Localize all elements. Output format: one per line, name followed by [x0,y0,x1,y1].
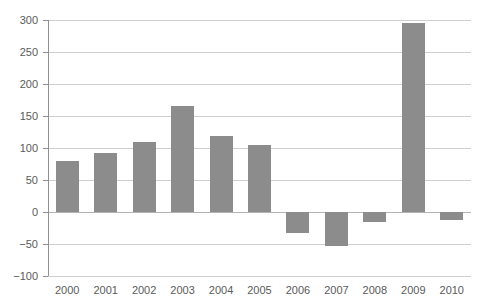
bar-2004 [210,136,233,212]
bar-2000 [56,161,79,212]
bar-chart: −100−50050100150200250300 20002001200220… [0,0,477,306]
gridline-300 [48,20,471,21]
gridline-0 [48,212,471,213]
bar-2008 [363,212,386,222]
y-tick-label--50: −50 [19,239,38,250]
y-tick-label-150: 150 [20,111,38,122]
y-tick-label--100: −100 [13,271,38,282]
gridline--100 [48,276,471,277]
y-tick-mark-50 [43,180,48,181]
y-tick-label-300: 300 [20,15,38,26]
bar-2002 [133,142,156,212]
y-tick-mark-0 [43,212,48,213]
bar-2001 [94,153,117,212]
y-tick-mark-250 [43,52,48,53]
bar-2003 [171,106,194,212]
y-tick-mark--100 [43,276,48,277]
y-tick-label-0: 0 [32,207,38,218]
bar-2010 [440,212,463,220]
y-tick-label-100: 100 [20,143,38,154]
plot-area [48,20,471,276]
y-axis-line [48,20,49,276]
y-tick-mark-100 [43,148,48,149]
bar-2009 [402,23,425,212]
x-tick-label-2010: 2010 [422,285,477,296]
bar-2007 [325,212,348,246]
y-tick-label-200: 200 [20,79,38,90]
y-tick-label-250: 250 [20,47,38,58]
bar-2006 [286,212,309,233]
y-axis-tick-labels: −100−50050100150200250300 [0,0,38,306]
bar-2005 [248,145,271,212]
y-tick-mark--50 [43,244,48,245]
y-tick-mark-200 [43,84,48,85]
y-tick-mark-300 [43,20,48,21]
y-tick-label-50: 50 [26,175,38,186]
gridline--50 [48,244,471,245]
y-tick-mark-150 [43,116,48,117]
